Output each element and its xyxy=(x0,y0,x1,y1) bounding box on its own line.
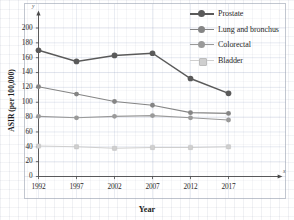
data-point xyxy=(226,90,232,96)
data-point xyxy=(112,99,117,104)
legend-marker-icon xyxy=(198,10,205,17)
legend-swatch-icon xyxy=(190,39,214,51)
series-bladder xyxy=(36,144,230,150)
legend-item-label: Lung and bronchus xyxy=(214,25,279,34)
legend-swatch-icon xyxy=(190,23,214,35)
data-point xyxy=(74,145,78,149)
legend-marker-icon xyxy=(198,26,205,33)
data-point xyxy=(74,92,79,97)
series-colorectal xyxy=(36,113,231,122)
legend-item-bladder[interactable]: Bladder xyxy=(190,53,292,69)
legend-item-colorectal[interactable]: Colorectal xyxy=(190,37,292,53)
data-point xyxy=(36,47,42,53)
legend-marker-icon xyxy=(198,41,205,48)
data-point xyxy=(150,103,155,108)
data-point xyxy=(74,59,80,65)
data-point xyxy=(112,53,118,59)
chart-legend: ProstateLung and bronchusColorectalBladd… xyxy=(190,6,292,68)
legend-item-label: Prostate xyxy=(214,9,243,18)
legend-item-label: Colorectal xyxy=(214,40,251,49)
data-point xyxy=(188,76,194,82)
x-tick-label: 2017 xyxy=(212,183,246,191)
legend-marker-icon xyxy=(199,58,207,66)
x-tick-label: 2012 xyxy=(174,183,208,191)
data-point xyxy=(188,145,192,149)
data-point xyxy=(74,115,79,120)
data-point xyxy=(36,84,41,89)
data-point xyxy=(36,114,41,119)
legend-item-lung-and-bronchus[interactable]: Lung and bronchus xyxy=(190,22,292,38)
legend-item-prostate[interactable]: Prostate xyxy=(190,6,292,22)
data-point xyxy=(188,110,193,115)
x-tick-label: 1992 xyxy=(22,183,56,191)
data-point xyxy=(150,145,154,149)
y-tick-label: 0 xyxy=(11,172,33,180)
y-axis-title: ASIR (per 100,000) xyxy=(7,41,16,161)
x-tick-label: 2007 xyxy=(136,183,170,191)
x-tick-label: 1997 xyxy=(60,183,94,191)
legend-swatch-icon xyxy=(190,8,214,20)
data-point xyxy=(112,114,117,119)
series-lung-and-bronchus xyxy=(36,84,231,116)
data-point xyxy=(150,50,156,56)
data-point xyxy=(112,146,116,150)
x-axis-title: Year xyxy=(0,205,294,214)
data-point xyxy=(188,115,193,120)
chart-figure: 020406080100120140160180200 199219972002… xyxy=(0,0,294,220)
data-point xyxy=(226,145,230,149)
y-tick-label: 200 xyxy=(11,24,33,32)
x-tick-label: 2002 xyxy=(98,183,132,191)
data-point xyxy=(36,144,40,148)
data-point xyxy=(226,111,231,116)
data-point xyxy=(226,118,231,123)
y-axis-letter: y xyxy=(32,3,34,9)
legend-swatch-icon xyxy=(190,55,214,67)
legend-item-label: Bladder xyxy=(214,56,243,65)
x-axis-letter: x xyxy=(283,168,285,174)
data-point xyxy=(150,113,155,118)
